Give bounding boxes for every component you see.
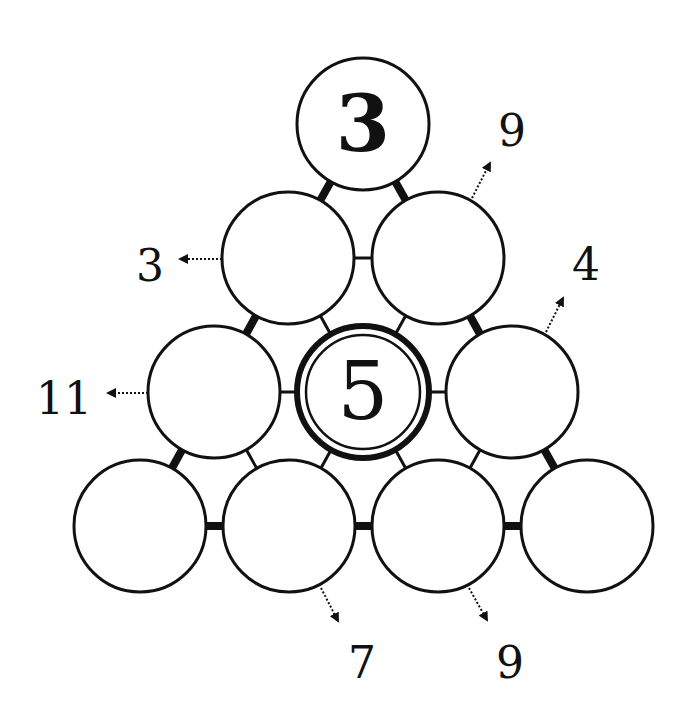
cell-circle bbox=[222, 192, 354, 324]
cell-r2c2[interactable] bbox=[446, 326, 578, 458]
clue-r2c2-label: 4 bbox=[572, 239, 600, 290]
cell-circle bbox=[446, 326, 578, 458]
cell-r2c0[interactable] bbox=[148, 326, 280, 458]
cell-circle bbox=[148, 326, 280, 458]
pyramid-puzzle: 35 3119479 bbox=[0, 0, 691, 726]
cell-circle bbox=[521, 460, 653, 592]
cell-circle bbox=[372, 460, 504, 592]
cell-r0c0[interactable]: 3 bbox=[297, 58, 429, 190]
cell-r3c3[interactable] bbox=[521, 460, 653, 592]
clue-r1c0-label: 3 bbox=[136, 240, 164, 291]
thick-connector bbox=[245, 314, 257, 336]
cell-r1c1[interactable] bbox=[372, 192, 504, 324]
thick-connector bbox=[469, 314, 481, 336]
cell-layer: 35 bbox=[74, 58, 653, 592]
cell-circle bbox=[74, 460, 206, 592]
clue-r2c0-label: 11 bbox=[36, 373, 92, 424]
cell-r1c0[interactable] bbox=[222, 192, 354, 324]
cell-r3c2[interactable] bbox=[372, 460, 504, 592]
cell-r2c1[interactable]: 5 bbox=[297, 326, 429, 458]
cell-circle bbox=[223, 460, 355, 592]
thick-connector bbox=[394, 180, 406, 202]
clue-r1c1-label: 9 bbox=[498, 105, 526, 156]
thin-connector bbox=[245, 448, 257, 470]
thick-connector bbox=[171, 448, 183, 470]
cell-circle bbox=[372, 192, 504, 324]
dotted-arrow-icon bbox=[469, 588, 487, 620]
dotted-arrow-icon bbox=[321, 588, 338, 621]
cell-value: 5 bbox=[338, 345, 389, 438]
thin-connector bbox=[469, 448, 481, 470]
clue-r3c2-label: 9 bbox=[496, 637, 524, 688]
thick-connector bbox=[319, 180, 331, 202]
dotted-arrow-icon bbox=[546, 298, 563, 332]
cell-value: 3 bbox=[336, 78, 390, 169]
thick-connector bbox=[543, 448, 555, 470]
cell-r3c0[interactable] bbox=[74, 460, 206, 592]
clue-r3c1-label: 7 bbox=[348, 637, 376, 688]
dotted-arrow-icon bbox=[472, 163, 490, 198]
cell-r3c1[interactable] bbox=[223, 460, 355, 592]
pyramid-board: 35 3119479 bbox=[0, 0, 691, 726]
